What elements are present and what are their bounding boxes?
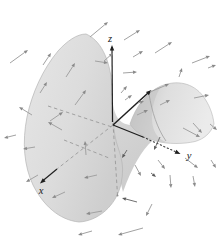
field-arrow-1 bbox=[124, 30, 140, 40]
field-arrow-shaft bbox=[125, 97, 129, 100]
field-arrow-shaft bbox=[179, 72, 181, 77]
field-arrow-4 bbox=[133, 51, 143, 57]
field-arrow-head bbox=[179, 68, 182, 72]
field-arrow-shaft bbox=[133, 53, 140, 57]
field-arrow-shaft bbox=[193, 176, 194, 183]
field-arrow-20 bbox=[125, 95, 132, 100]
vector-field-surface-figure: z x y bbox=[0, 0, 217, 251]
field-arrow-16 bbox=[121, 86, 127, 93]
field-arrow-10 bbox=[10, 50, 28, 63]
field-arrow-shaft bbox=[121, 89, 124, 93]
field-arrow-shaft bbox=[10, 52, 25, 63]
z-axis-arrowhead bbox=[110, 45, 114, 51]
field-arrow-head bbox=[122, 197, 126, 200]
field-arrow-7 bbox=[179, 68, 182, 77]
field-arrow-shaft bbox=[155, 44, 169, 53]
field-arrow-shaft bbox=[170, 175, 171, 184]
field-arrow-34 bbox=[193, 176, 196, 187]
field-arrow-head bbox=[133, 71, 137, 74]
field-arrow-shaft bbox=[192, 57, 206, 63]
field-arrow-shaft bbox=[8, 135, 16, 137]
field-arrow-head bbox=[169, 184, 172, 188]
field-arrow-head bbox=[193, 183, 196, 187]
field-arrow-2 bbox=[155, 42, 172, 53]
field-arrow-shaft bbox=[148, 204, 152, 212]
field-arrow-0 bbox=[90, 22, 108, 37]
field-arrow-shaft bbox=[85, 145, 86, 155]
axis-label-y: y bbox=[186, 150, 192, 161]
y-axis-arrowhead bbox=[175, 150, 181, 154]
field-arrow-shaft bbox=[158, 160, 163, 166]
field-arrow-5 bbox=[123, 71, 137, 74]
field-arrow-31 bbox=[135, 165, 141, 176]
field-arrow-shaft bbox=[90, 25, 105, 37]
hidden-line-end-dot bbox=[117, 195, 119, 197]
field-arrow-shaft bbox=[82, 231, 92, 234]
field-arrow-shaft bbox=[135, 165, 139, 172]
field-arrow-shaft bbox=[124, 32, 137, 40]
field-arrow-shaft bbox=[138, 102, 140, 103]
z-axis-line bbox=[112, 47, 113, 122]
field-arrow-head bbox=[47, 53, 51, 57]
field-arrow-head bbox=[205, 94, 209, 97]
field-arrow-head bbox=[206, 56, 210, 59]
axis-label-z: z bbox=[107, 33, 112, 44]
field-arrow-35 bbox=[146, 204, 152, 216]
field-arrow-46 bbox=[158, 160, 165, 169]
field-arrow-33 bbox=[169, 175, 172, 188]
field-arrow-shaft bbox=[123, 72, 133, 73]
field-arrow-39 bbox=[78, 231, 92, 236]
field-arrow-head bbox=[118, 232, 122, 235]
field-arrow-shaft bbox=[43, 56, 49, 65]
field-arrow-shaft bbox=[211, 160, 214, 165]
field-arrow-head bbox=[4, 135, 8, 138]
field-arrow-36 bbox=[122, 197, 137, 202]
field-arrow-shaft bbox=[208, 66, 212, 68]
field-arrow-3 bbox=[192, 56, 210, 63]
field-arrow-40 bbox=[211, 160, 216, 168]
field-arrow-37 bbox=[118, 228, 143, 236]
field-arrow-shaft bbox=[151, 173, 153, 175]
field-arrow-43 bbox=[208, 65, 216, 68]
axis-label-x: x bbox=[38, 185, 44, 196]
field-arrow-shaft bbox=[122, 228, 143, 234]
field-arrow-32 bbox=[151, 173, 156, 177]
field-arrow-shaft bbox=[126, 199, 137, 202]
field-arrow-head bbox=[78, 232, 82, 235]
field-arrow-12 bbox=[4, 135, 16, 139]
field-arrow-head bbox=[212, 65, 216, 68]
